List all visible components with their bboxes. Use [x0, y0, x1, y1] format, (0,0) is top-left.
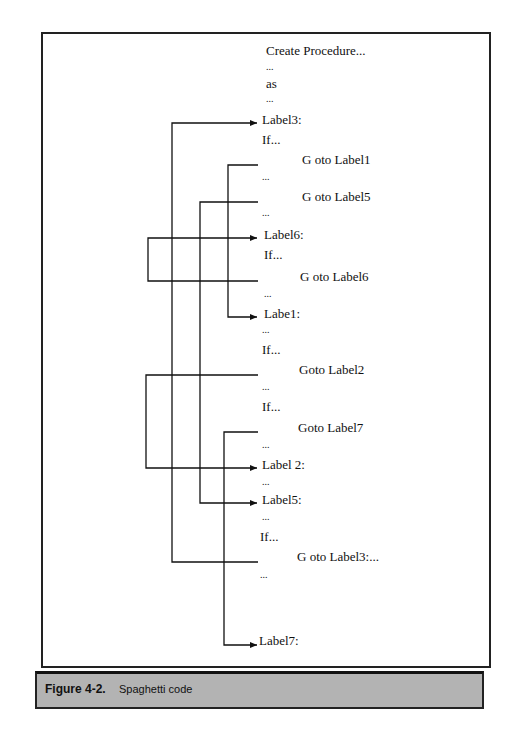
- code-line: If...: [262, 133, 280, 146]
- code-line: If...: [262, 343, 280, 356]
- code-line: G oto Label1: [302, 153, 371, 166]
- code-line: G oto Label3:...: [297, 550, 379, 563]
- code-line: Goto Label7: [298, 421, 363, 434]
- jump-arrow: [172, 123, 258, 562]
- code-line: Goto Label2: [299, 363, 364, 376]
- code-line: ...: [262, 440, 270, 450]
- code-line: Label3:: [262, 113, 302, 126]
- code-line: ...: [260, 570, 268, 580]
- code-line: ...: [264, 289, 272, 299]
- code-line: If...: [264, 248, 282, 261]
- code-line: as: [266, 77, 277, 90]
- code-line: Label 2:: [262, 458, 305, 471]
- code-line: ...: [262, 512, 270, 522]
- code-line: ...: [266, 62, 274, 72]
- code-line: Labe1:: [264, 307, 300, 320]
- code-line: Label5:: [262, 493, 302, 506]
- jump-arrow: [228, 165, 258, 317]
- jump-arrow: [224, 432, 258, 645]
- code-line: If...: [262, 400, 280, 413]
- code-line: ...: [262, 477, 270, 487]
- figure-caption: Figure 4-2. Spaghetti code: [35, 671, 484, 709]
- code-line: Label6:: [264, 228, 304, 241]
- code-line: Label7:: [259, 634, 299, 647]
- figure-title: Spaghetti code: [119, 683, 192, 695]
- code-line: ...: [262, 382, 270, 392]
- code-line: G oto Label6: [300, 270, 369, 283]
- code-line: If...: [260, 530, 278, 543]
- jump-arrow: [200, 202, 258, 503]
- jump-arrow: [148, 238, 258, 281]
- code-line: ...: [266, 94, 274, 104]
- code-line: ...: [262, 208, 270, 218]
- code-line: G oto Label5: [302, 190, 371, 203]
- code-line: Create Procedure...: [266, 44, 366, 57]
- figure-number: Figure 4-2.: [45, 682, 106, 696]
- code-line: ...: [262, 172, 270, 182]
- jump-arrow: [146, 375, 258, 468]
- code-line: ...: [262, 325, 270, 335]
- flow-arrows: [0, 0, 517, 741]
